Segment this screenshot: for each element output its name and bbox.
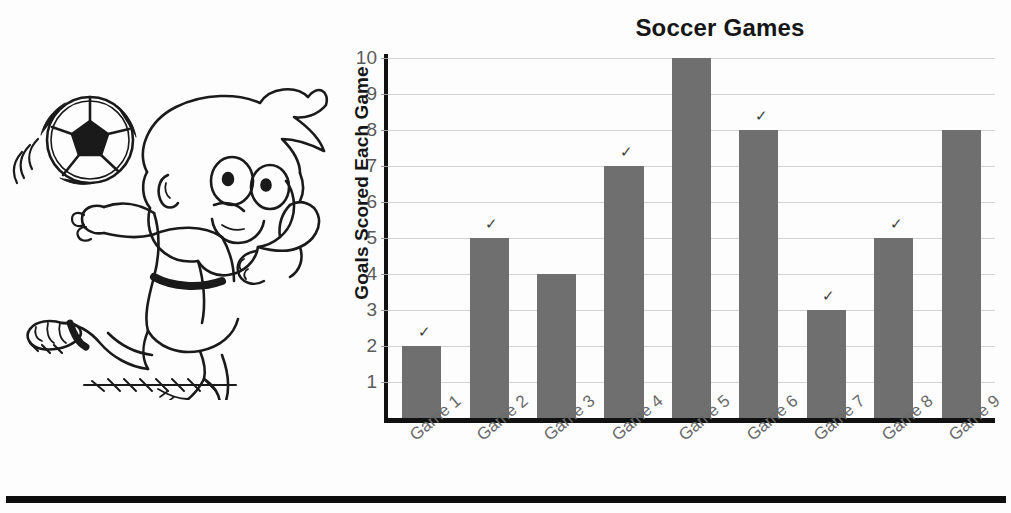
pencil-check-mark: ✓ (755, 108, 768, 123)
y-axis-tickmark (381, 238, 388, 239)
y-axis-tickmark (381, 166, 388, 167)
shirt (146, 213, 158, 331)
y-axis-tick-label: 10 (356, 47, 377, 69)
pencil-check-mark: ✓ (418, 324, 431, 339)
pencil-check-mark: ✓ (620, 144, 633, 159)
y-axis-tickmark (381, 274, 388, 275)
y-axis-tickmark (381, 310, 388, 311)
y-axis-tick-label: 7 (366, 155, 377, 177)
bar[interactable] (874, 238, 913, 418)
mouth (212, 219, 264, 243)
y-axis-tickmark (381, 130, 388, 131)
pencil-check-mark: ✓ (485, 216, 498, 231)
bottom-divider (6, 496, 1006, 503)
y-axis-tickmark (381, 382, 388, 383)
boy-kicking-soccer-ball-illustration (8, 55, 338, 400)
plot-area: 12345678910 Game 1Game 2Game 3Game 4Game… (388, 58, 995, 418)
bar[interactable] (537, 274, 576, 418)
bar[interactable] (739, 130, 778, 418)
chart-title: Soccer Games (510, 14, 930, 42)
y-axis-tick-label: 8 (366, 119, 377, 141)
eyes (211, 157, 289, 209)
y-axis-tickmark (381, 58, 388, 59)
y-axis-tick-label: 1 (366, 371, 377, 393)
y-axis-tick-label: 6 (366, 191, 377, 213)
y-axis-tick-label: 9 (366, 83, 377, 105)
y-axis-tickmark (381, 202, 388, 203)
motion-arcs (14, 139, 38, 183)
pencil-check-mark: ✓ (890, 216, 903, 231)
y-axis-tickmark (381, 94, 388, 95)
worksheet-page: Soccer Games Goals Scored Each Game 1234… (0, 0, 1011, 513)
y-axis-tick-label: 2 (366, 335, 377, 357)
y-axis-tick-label: 5 (366, 227, 377, 249)
hair (143, 89, 327, 173)
soccer-ball-icon (41, 97, 136, 184)
back-arm (82, 206, 104, 234)
soccer-games-bar-chart: Soccer Games Goals Scored Each Game 1234… (330, 0, 1011, 500)
ear (159, 175, 178, 208)
bar[interactable] (807, 310, 846, 418)
y-axis-tick-label: 4 (366, 263, 377, 285)
bar[interactable] (942, 130, 981, 418)
y-axis-tick-label: 3 (366, 299, 377, 321)
bar[interactable] (470, 238, 509, 418)
bar[interactable] (604, 166, 643, 418)
pencil-check-mark: ✓ (822, 288, 835, 303)
bar[interactable] (672, 58, 711, 418)
y-axis-tickmark (381, 346, 388, 347)
shorts (148, 319, 238, 352)
